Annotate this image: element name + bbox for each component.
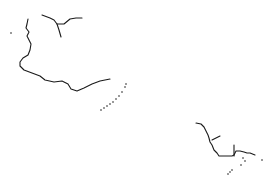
coastline-map <box>0 0 276 183</box>
isolated-dot <box>10 32 12 34</box>
southeast-inlet <box>212 136 220 140</box>
southeast-coastline <box>196 123 255 156</box>
north-river-branch <box>57 24 61 37</box>
north-river-system <box>42 15 82 24</box>
islet-dot <box>10 32 12 34</box>
islet-dot <box>118 95 120 97</box>
island-chain <box>100 83 127 111</box>
islet-dot <box>261 159 263 161</box>
islet-dot <box>106 105 108 107</box>
islet-dot <box>115 98 117 100</box>
map-canvas <box>0 0 276 183</box>
islet-dot <box>240 164 242 166</box>
southeast-islets <box>227 157 263 175</box>
islet-dot <box>227 173 229 175</box>
islet-dot <box>125 83 127 85</box>
islet-dot <box>231 169 233 171</box>
northwest-coastline <box>20 19 110 91</box>
islet-dot <box>244 160 246 162</box>
islet-dot <box>229 171 231 173</box>
islet-dot <box>103 107 105 109</box>
islet-dot <box>124 86 126 88</box>
islet-dot <box>100 109 102 111</box>
islet-dot <box>112 101 114 103</box>
islet-dot <box>242 157 244 159</box>
islet-dot <box>109 103 111 105</box>
islet-dot <box>121 91 123 93</box>
